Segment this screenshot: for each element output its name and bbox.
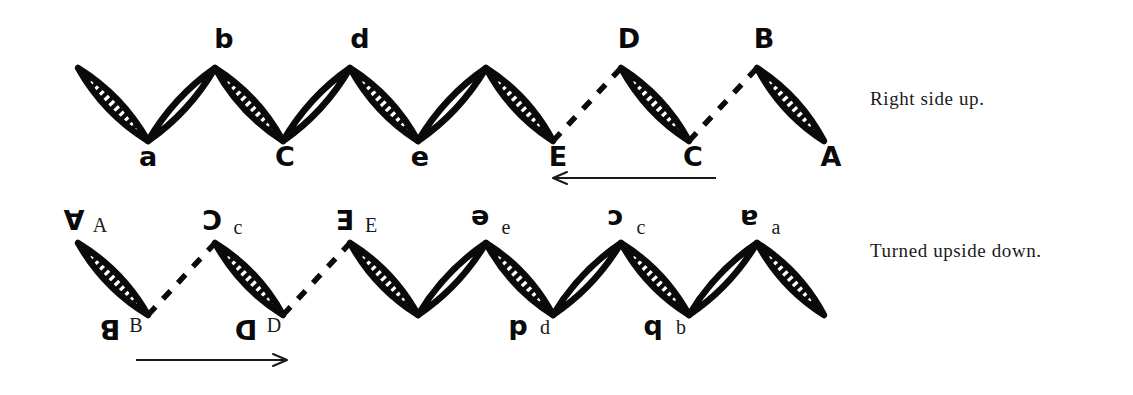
letter-label-d: d <box>540 316 550 338</box>
letter-label-b: b <box>214 23 233 54</box>
letter-label-b: b <box>676 316 686 338</box>
zigzag-lens-diagram: abCdeEDCBAAABBCcDDEEeeddccbbaa <box>0 0 1133 395</box>
letter-label-B: B <box>129 314 142 336</box>
letter-label-e: e <box>411 141 429 172</box>
letter-label-e: e <box>502 216 511 238</box>
letter-label-a: a <box>772 216 781 238</box>
letter-label-e-rotated: e <box>471 204 489 235</box>
letter-label-a-rotated: a <box>740 204 758 235</box>
letter-label-A: A <box>93 214 108 236</box>
letter-label-E-rotated: E <box>336 204 354 235</box>
letter-label-E: E <box>365 214 377 236</box>
letter-label-C: C <box>275 141 295 172</box>
letter-label-D: D <box>618 23 640 54</box>
letter-label-B: B <box>754 23 775 54</box>
figure-root: abCdeEDCBAAABBCcDDEEeeddccbbaa Right sid… <box>0 0 1133 395</box>
letter-label-A-rotated: A <box>63 204 84 235</box>
letter-label-d-rotated: d <box>508 314 527 345</box>
letter-label-C-rotated: C <box>202 204 222 235</box>
letter-label-c: c <box>234 216 243 238</box>
letter-label-D-rotated: D <box>235 314 257 345</box>
letter-label-c-rotated: c <box>607 204 623 235</box>
letter-label-D: D <box>267 314 281 336</box>
caption-turned-upside-down: Turned upside down. <box>870 240 1042 262</box>
letter-label-A: A <box>821 141 842 172</box>
letter-label-C: C <box>683 141 703 172</box>
letter-label-B-rotated: B <box>100 314 121 345</box>
figure-background <box>0 0 1133 395</box>
letter-label-E: E <box>549 141 567 172</box>
letter-label-d: d <box>350 23 369 54</box>
letter-label-b-rotated: b <box>643 314 662 345</box>
letter-label-a: a <box>139 141 157 172</box>
letter-label-c: c <box>637 216 646 238</box>
caption-right-side-up: Right side up. <box>870 88 985 110</box>
